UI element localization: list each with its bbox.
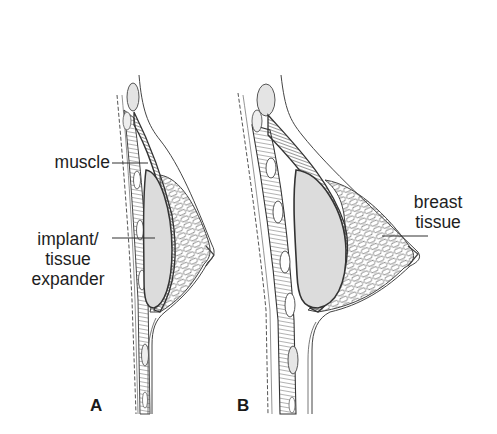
panel-letter-b: B <box>237 396 249 416</box>
panel-a-drawing <box>112 75 214 414</box>
panel-b-drawing <box>238 75 428 414</box>
label-breast-tissue: breast tissue <box>408 192 468 232</box>
label-implant-line3: expander <box>26 269 110 289</box>
panel-a-clavicle <box>127 83 139 111</box>
panel-letter-a: A <box>90 396 102 416</box>
breast-implant-diagram: muscle implant/ tissue expander breast t… <box>0 0 497 434</box>
label-implant-line1: implant/ <box>26 229 110 249</box>
label-muscle: muscle <box>30 152 110 172</box>
label-implant-line2: tissue <box>26 249 110 269</box>
label-breast-tissue-line2: tissue <box>408 212 468 232</box>
label-breast-tissue-line1: breast <box>408 192 468 212</box>
label-implant-tissue-expander: implant/ tissue expander <box>26 229 110 289</box>
